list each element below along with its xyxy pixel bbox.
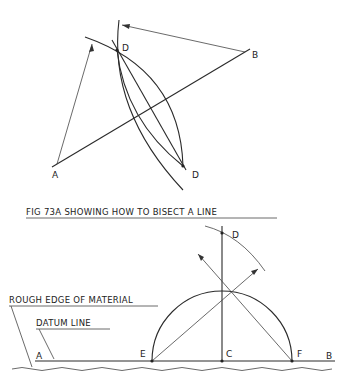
label-e: E (140, 349, 146, 359)
point-d (220, 231, 223, 234)
label-b-top: B (252, 50, 258, 60)
label-d-top: D (122, 43, 129, 53)
label-a-bottom: A (36, 351, 43, 361)
label-b-bottom: B (326, 351, 332, 361)
point-f (290, 359, 293, 362)
diagonal-e (152, 269, 258, 361)
label-d: D (232, 230, 239, 240)
point-d-top (115, 48, 118, 51)
label-f: F (297, 349, 302, 359)
radius-dimension-b (122, 25, 245, 52)
rough-edge-leader (11, 306, 32, 367)
top-figure: A B D D (52, 20, 258, 190)
rough-edge (12, 368, 332, 371)
diagonal-f (198, 254, 292, 361)
point-c (220, 359, 223, 362)
point-d-bottom (181, 164, 184, 167)
label-c: C (226, 349, 232, 359)
label-d-bottom: D (192, 170, 199, 180)
bisector-dd (112, 40, 186, 170)
point-e (150, 359, 153, 362)
arrowhead-icon (122, 24, 130, 29)
arc-from-a (85, 37, 183, 166)
rough-edge-label: ROUGH EDGE OF MATERIAL (9, 295, 133, 305)
bisect-line-drawing: A B D D FIG 73A SHOWING HOW TO BISECT A … (0, 0, 354, 378)
figure-caption: FIG 73A SHOWING HOW TO BISECT A LINE (26, 207, 217, 217)
datum-line-label: DATUM LINE (36, 318, 91, 328)
label-a-top: A (52, 170, 59, 180)
bottom-figure: A B C D E F ROUGH EDGE OF MATERIAL DATUM… (9, 225, 335, 371)
